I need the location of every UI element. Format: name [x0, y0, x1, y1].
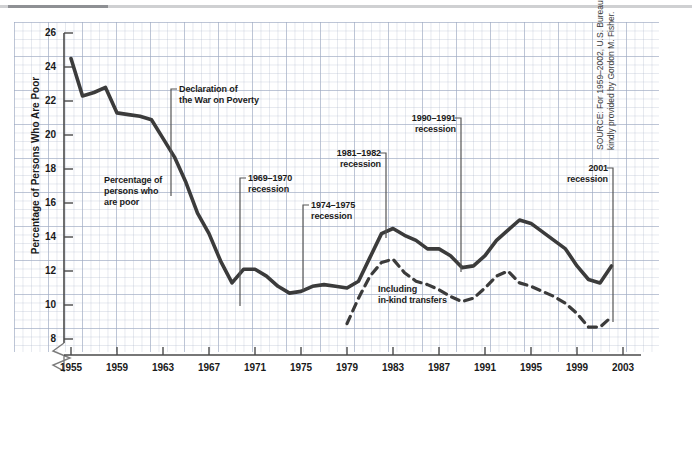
annotation-line: Including — [378, 284, 447, 295]
source-note: SOURCE: For 1959–2002, U.S. Bureau of th… — [595, 0, 617, 150]
chart-plot-svg — [0, 0, 692, 450]
chart-figure: Percentage of Persons Who Are Poor 26242… — [0, 0, 692, 450]
annotation-line: the War on Poverty — [179, 95, 259, 106]
y-axis-tick-label: 8 — [30, 334, 56, 344]
x-axis-tick-label: 1955 — [48, 363, 94, 373]
x-axis-tick-label: 1987 — [416, 363, 462, 373]
annotation-in-kind-transfers: Including in-kind transfers — [378, 284, 447, 306]
annotation-line: recession — [311, 211, 355, 222]
y-axis-tick-label: 26 — [30, 28, 56, 38]
annotation-line: are poor — [104, 197, 162, 208]
annotation-line: 1981–1982 — [337, 148, 381, 159]
annotation-declaration-war-on-poverty: Declaration of the War on Poverty — [179, 84, 259, 106]
annotation-line: 1974–1975 — [311, 200, 355, 211]
annotation-recession-1990-1991: 1990–1991 recession — [412, 113, 456, 135]
y-axis-tick-label: 12 — [30, 266, 56, 276]
annotation-line: in-kind transfers — [378, 295, 447, 306]
x-axis-tick-label: 1971 — [232, 363, 278, 373]
x-axis-tick-label: 1967 — [186, 363, 232, 373]
y-axis-tick-label: 22 — [30, 96, 56, 106]
annotation-line: recession — [337, 159, 381, 170]
x-axis-tick-label: 1983 — [370, 363, 416, 373]
y-axis-tick-label: 24 — [30, 62, 56, 72]
y-axis-tick-label: 18 — [30, 164, 56, 174]
y-axis-tick-label: 10 — [30, 300, 56, 310]
y-axis-tick-label: 14 — [30, 232, 56, 242]
x-axis-tick-label: 1959 — [94, 363, 140, 373]
annotation-line: 1990–1991 — [412, 113, 456, 124]
annotation-line: recession — [567, 174, 608, 185]
annotation-line: persons who — [104, 186, 162, 197]
annotation-recession-1969-1970: 1969–1970 recession — [248, 173, 292, 195]
annotation-line: recession — [248, 184, 292, 195]
annotation-recession-1974-1975: 1974–1975 recession — [311, 200, 355, 222]
x-axis-tick-label: 1995 — [508, 363, 554, 373]
annotation-line: 1969–1970 — [248, 173, 292, 184]
annotation-line: recession — [412, 124, 456, 135]
annotation-percentage-poor: Percentage of persons who are poor — [104, 175, 162, 208]
x-axis-tick-label: 1999 — [554, 363, 600, 373]
x-axis-tick-label: 1963 — [140, 363, 186, 373]
x-axis-tick-label: 2003 — [600, 363, 646, 373]
annotation-line: Percentage of — [104, 175, 162, 186]
annotation-recession-1981-1982: 1981–1982 recession — [337, 148, 381, 170]
x-axis-tick-label: 1979 — [324, 363, 370, 373]
y-axis-tick-label: 16 — [30, 198, 56, 208]
x-axis-tick-label: 1975 — [278, 363, 324, 373]
x-axis-tick-label: 1991 — [462, 363, 508, 373]
annotation-line: 2001 — [567, 163, 608, 174]
y-axis-tick-label: 20 — [30, 130, 56, 140]
annotation-line: Declaration of — [179, 84, 259, 95]
annotation-recession-2001: 2001 recession — [567, 163, 608, 185]
